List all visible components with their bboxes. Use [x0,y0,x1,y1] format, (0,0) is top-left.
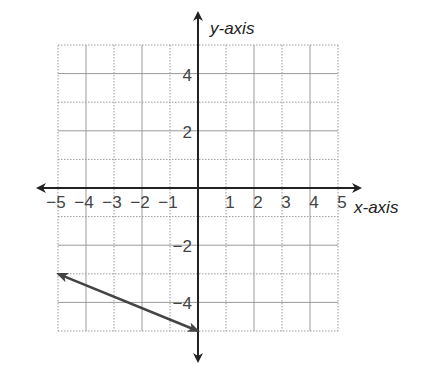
y-tick-label: 2 [183,123,192,142]
y-tick-label: −2 [173,237,192,256]
x-tick-label: −2 [130,193,149,212]
x-tick-label: 3 [281,193,290,212]
x-tick-label: 5 [337,193,346,212]
x-tick-label: −4 [74,193,93,212]
y-tick-label: −4 [173,294,192,313]
x-tick-label: −1 [158,193,177,212]
x-tick-label: 4 [309,193,318,212]
coordinate-plane: −5−4−3−2−11234542−2−4 x-axis y-axis [0,0,430,379]
y-axis-label: y-axis [209,19,255,38]
x-tick-label: −5 [46,193,65,212]
x-tick-label: −3 [102,193,121,212]
x-tick-label: 1 [225,193,234,212]
tick-labels: −5−4−3−2−11234542−2−4 [46,66,346,314]
x-tick-label: 2 [253,193,262,212]
x-axis-label: x-axis [353,198,399,217]
y-tick-label: 4 [183,66,192,85]
